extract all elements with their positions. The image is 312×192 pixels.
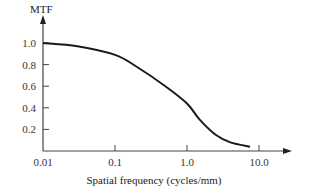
- x-tick-label: 10.0: [249, 156, 269, 168]
- x-tick-label: 0.1: [108, 156, 122, 168]
- y-axis-arrow-icon: [40, 15, 46, 24]
- y-axis: MTF 0.20.40.60.81.0: [22, 3, 52, 151]
- y-tick-label: 0.2: [22, 123, 36, 135]
- x-tick-label: 0.01: [33, 156, 52, 168]
- x-axis-arrow-icon: [283, 148, 292, 154]
- mtf-curve: [43, 43, 250, 147]
- y-tick-label: 1.0: [22, 37, 36, 49]
- x-axis-label: Spatial frequency (cycles/mm): [86, 174, 221, 187]
- x-tick-label: 1.0: [180, 156, 194, 168]
- mtf-chart: MTF 0.20.40.60.81.0 0.010.11.010.0 Spati…: [0, 0, 312, 192]
- y-tick-label: 0.8: [22, 59, 36, 71]
- x-axis: 0.010.11.010.0 Spatial frequency (cycles…: [33, 145, 292, 187]
- y-tick-label: 0.4: [22, 102, 36, 114]
- y-tick-label: 0.6: [22, 80, 36, 92]
- y-axis-label: MTF: [30, 3, 53, 15]
